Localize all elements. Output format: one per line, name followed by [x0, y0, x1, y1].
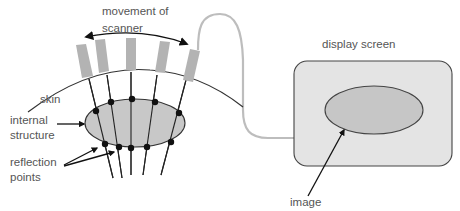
movement-label: movement of scanner: [102, 3, 168, 37]
probe-4: [155, 41, 170, 73]
probe-2: [95, 39, 109, 73]
scanner-cable: [198, 14, 294, 138]
reflection-points-line1: reflection: [10, 155, 57, 170]
skin-label: skin: [40, 92, 60, 107]
probe-1: [76, 44, 93, 78]
screen-image: [325, 86, 423, 134]
reflection-points-line2: points: [10, 170, 57, 185]
display-screen-label: display screen: [322, 37, 396, 52]
reflection-points-label: reflection points: [10, 155, 57, 185]
probe-3: [126, 38, 136, 70]
reflection-arrow-1: [64, 148, 97, 165]
reflection-arrow-2: [64, 152, 114, 166]
internal-structure-label: internal structure: [10, 113, 55, 143]
ultrasound-diagram: [0, 0, 460, 211]
movement-label-line2: scanner: [102, 20, 168, 37]
internal-structure-line2: structure: [10, 128, 55, 143]
probe-5: [183, 49, 200, 82]
internal-structure-line1: internal: [10, 113, 55, 128]
movement-label-line1: movement of: [102, 3, 168, 20]
image-label: image: [290, 195, 321, 210]
